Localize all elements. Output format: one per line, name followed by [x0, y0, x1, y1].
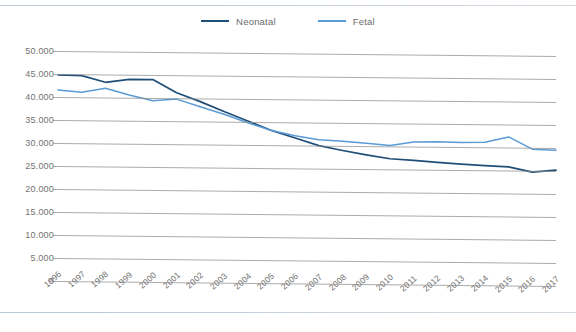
legend-item-fetal: Fetal	[318, 16, 375, 27]
y-axis-tickmark	[53, 189, 58, 190]
plot-area	[58, 51, 556, 281]
line-swatch-icon	[318, 20, 346, 22]
y-axis-tick-label: 35.000	[25, 115, 54, 125]
y-axis-tickmark	[53, 235, 58, 236]
y-axis-tick-label: 30.000	[25, 138, 54, 148]
legend-label: Neonatal	[236, 16, 276, 27]
y-axis-tick-label: 25.000	[25, 161, 54, 171]
y-axis-tickmark	[53, 212, 58, 213]
y-axis-tickmark	[53, 166, 58, 167]
legend-item-neonatal: Neonatal	[201, 16, 276, 27]
y-axis-tick-label: 40.000	[25, 92, 54, 102]
top-border-rule	[0, 5, 576, 6]
y-axis-tickmark	[53, 51, 58, 52]
y-axis-tickmark	[53, 120, 58, 121]
x-axis-labels: 1996199719981999200020012002200320042005…	[0, 281, 576, 326]
y-axis-tickmark	[53, 97, 58, 98]
y-axis-tickmark	[53, 74, 58, 75]
y-axis-tick-label: 50.000	[25, 46, 54, 56]
y-axis-tick-label: 15.000	[25, 207, 54, 217]
y-axis-tickmark	[53, 258, 58, 259]
y-axis-tick-label: 10.000	[25, 230, 54, 240]
y-axis-tick-label: 20.000	[25, 184, 54, 194]
legend-label: Fetal	[353, 16, 375, 27]
y-axis-tickmark	[53, 143, 58, 144]
line-chart: Neonatal Fetal 50.00045.00040.00035.0003…	[0, 0, 576, 332]
y-axis-tick-label: 5.000	[30, 253, 54, 263]
y-axis-labels: 50.00045.00040.00035.00030.00025.00020.0…	[0, 51, 54, 281]
y-axis-tick-label: 45.000	[25, 69, 54, 79]
chart-legend: Neonatal Fetal	[0, 13, 576, 29]
line-swatch-icon	[201, 20, 229, 22]
